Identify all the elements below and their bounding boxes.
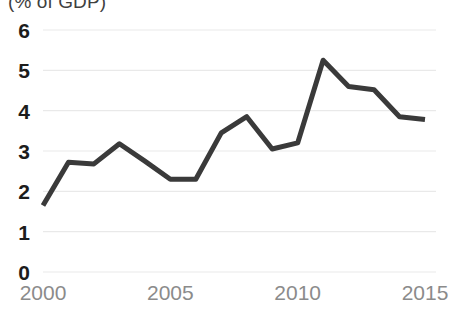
data-line-series — [43, 60, 425, 205]
x-axis-tick-label: 2010 — [274, 282, 321, 303]
y-axis-tick-label: 2 — [4, 181, 30, 202]
chart-container: (% of GDP) 0123456 2000200520102015 — [0, 0, 451, 314]
y-axis-tick-label: 5 — [4, 60, 30, 81]
y-axis-tick-label: 6 — [4, 20, 30, 41]
y-axis-tick-label: 3 — [4, 141, 30, 162]
x-axis-tick-label: 2005 — [147, 282, 194, 303]
y-axis-tick-label: 0 — [4, 262, 30, 283]
x-axis-tick-label: 2015 — [402, 282, 449, 303]
x-axis-tick-label: 2000 — [20, 282, 67, 303]
gridlines — [43, 30, 436, 272]
y-axis-tick-label: 4 — [4, 100, 30, 121]
plot-area — [0, 0, 451, 314]
y-axis-tick-label: 1 — [4, 221, 30, 242]
